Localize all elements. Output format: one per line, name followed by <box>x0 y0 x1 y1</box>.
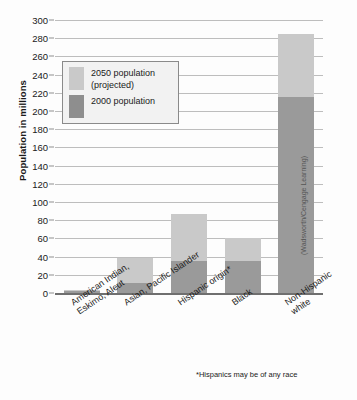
bar-group <box>225 238 261 294</box>
y-axis-title: Population in millions <box>17 41 28 221</box>
y-tick-mark <box>49 220 54 221</box>
y-tick-mark <box>49 274 54 275</box>
bar-segment-2000 <box>278 97 314 293</box>
y-tick-mark <box>49 20 54 21</box>
y-tick-label: 80 <box>37 215 48 226</box>
y-tick-mark <box>49 74 54 75</box>
y-tick-label: 260 <box>32 51 48 62</box>
y-tick-label: 240 <box>32 69 48 80</box>
y-tick-label: 180 <box>32 124 48 135</box>
y-tick-label: 300 <box>32 15 48 26</box>
y-tick-label: 100 <box>32 197 48 208</box>
legend-item-2050: 2050 population (projected) <box>69 67 172 91</box>
y-tick-label: 40 <box>37 251 48 262</box>
y-tick-mark <box>49 165 54 166</box>
legend-label-2000-line1: 2000 population <box>91 96 155 106</box>
y-tick-label: 120 <box>32 178 48 189</box>
y-tick-mark <box>49 111 54 112</box>
chart-footnote: *Hispanics may be of any race <box>196 370 297 379</box>
y-tick-label: 20 <box>37 269 48 280</box>
y-tick-label: 200 <box>32 106 48 117</box>
y-tick-label: 0 <box>43 288 48 299</box>
y-tick-mark <box>49 183 54 184</box>
light-gray-swatch-icon <box>69 67 84 90</box>
legend-item-2000: 2000 population <box>69 95 172 118</box>
y-tick-label: 280 <box>32 33 48 44</box>
legend-label-2000: 2000 population <box>91 95 155 108</box>
legend-label-2050: 2050 population (projected) <box>91 67 155 91</box>
y-tick-mark <box>49 238 54 239</box>
y-tick-mark <box>49 293 54 294</box>
y-tick-mark <box>49 129 54 130</box>
y-tick-label: 160 <box>32 142 48 153</box>
y-tick-label: 140 <box>32 160 48 171</box>
bar-group <box>278 34 314 293</box>
y-tick-mark <box>49 147 54 148</box>
legend-label-2050-line2: (projected) <box>91 80 155 92</box>
publisher-credit: (Wadsworth/Cengage Learning) <box>300 115 307 255</box>
y-tick-label: 60 <box>37 233 48 244</box>
dark-gray-swatch-icon <box>69 95 84 118</box>
population-bar-chart-figure: Population in millions 02040608010012014… <box>0 0 357 400</box>
gridline: 300 <box>55 20 323 21</box>
y-tick-mark <box>49 38 54 39</box>
y-tick-mark <box>49 92 54 93</box>
chart-legend: 2050 population (projected) 2000 populat… <box>62 61 179 124</box>
y-tick-mark <box>49 256 54 257</box>
legend-label-2050-line1: 2050 population <box>91 68 155 78</box>
y-tick-label: 220 <box>32 87 48 98</box>
y-tick-mark <box>49 56 54 57</box>
y-tick-mark <box>49 202 54 203</box>
